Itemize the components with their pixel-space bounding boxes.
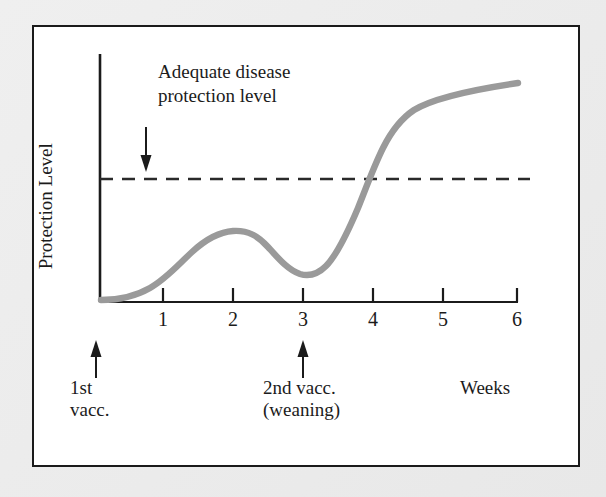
page-background: Adequate disease protection level Protec… — [0, 0, 606, 497]
x-tick-label-6: 6 — [502, 308, 532, 332]
x-tick-label-4: 4 — [358, 308, 388, 332]
x-tick-label-5: 5 — [428, 308, 458, 332]
y-axis-label: Protection Level — [35, 116, 57, 296]
threshold-annotation-label: Adequate disease protection level — [158, 60, 290, 109]
x-tick-label-2: 2 — [218, 308, 248, 332]
x-axis-unit-label: Weeks — [460, 377, 510, 399]
x-tick-label-1: 1 — [148, 308, 178, 332]
first-vaccination-label: 1st vacc. — [70, 377, 110, 422]
second-vaccination-label: 2nd vacc. (weaning) — [263, 377, 340, 422]
x-tick-label-3: 3 — [288, 308, 318, 332]
